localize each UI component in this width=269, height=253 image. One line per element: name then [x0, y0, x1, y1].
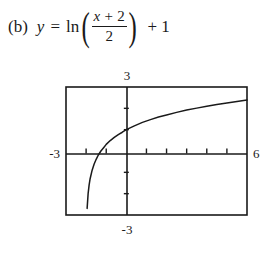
graph-figure: 3 -3 -3 6: [0, 58, 269, 253]
axis-label-bottom: -3: [122, 222, 133, 237]
part-label: (b): [8, 18, 28, 35]
numerator-rest: + 2: [105, 8, 126, 24]
lhs-variable: y: [37, 18, 45, 35]
calculator-viewport: 3 -3 -3 6: [0, 58, 269, 253]
trailing-term: + 1: [148, 18, 170, 35]
fraction-numerator: x + 2: [92, 8, 128, 26]
numerator-variable: x: [94, 8, 101, 24]
equation-expression: (b) y = ln ( x + 2 2 ) + 1: [8, 8, 170, 45]
equals-sign: =: [50, 18, 60, 35]
fraction-denominator: 2: [104, 27, 116, 45]
axis-label-top: 3: [124, 68, 131, 83]
axis-label-left: -3: [49, 146, 60, 161]
fraction: x + 2 2: [92, 8, 128, 45]
plot-frame: [66, 87, 247, 215]
axis-label-right: 6: [253, 146, 260, 161]
natural-log-function: ln: [66, 18, 79, 35]
